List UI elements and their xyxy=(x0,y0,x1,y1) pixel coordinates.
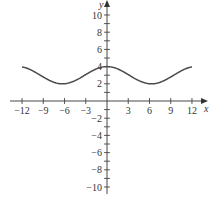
y-tick-label: 8 xyxy=(97,27,102,38)
y-tick-label: 2 xyxy=(97,78,102,89)
x-tick-label: −3 xyxy=(80,105,91,116)
x-tick-label: −12 xyxy=(14,105,30,116)
x-axis-title: x xyxy=(203,103,209,114)
y-tick-label: 6 xyxy=(97,44,102,55)
x-tick-label: −6 xyxy=(59,105,70,116)
y-tick-label: −10 xyxy=(86,182,102,193)
y-axis-arrow-icon xyxy=(104,0,110,7)
x-tick-label: −9 xyxy=(38,105,49,116)
y-axis-title: y xyxy=(98,0,104,10)
y-tick-label: 10 xyxy=(92,10,102,21)
x-tick-label: 3 xyxy=(126,105,131,116)
x-tick-label: 6 xyxy=(147,105,152,116)
function-graph: x y −12−9−6−336912 −10−8−6−4−2246810 xyxy=(0,0,212,198)
x-tick-label: 12 xyxy=(187,105,197,116)
y-tick-label: −6 xyxy=(91,147,102,158)
y-tick-label: −4 xyxy=(91,130,102,141)
y-tick-label: −2 xyxy=(91,113,102,124)
y-tick-label: −8 xyxy=(91,164,102,175)
x-tick-label: 9 xyxy=(168,105,173,116)
axes: x y xyxy=(10,0,209,194)
